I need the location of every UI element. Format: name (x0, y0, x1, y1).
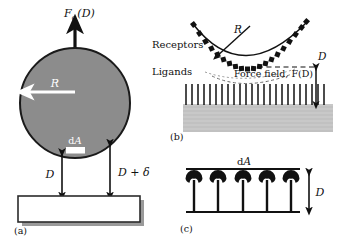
panel-c-area-label: dA (237, 155, 251, 167)
panel-a-area-patch (66, 147, 85, 154)
panel-c: dA (180, 155, 325, 234)
panel-b-force-field-label: Force field, F(D) (234, 68, 313, 79)
panel-b-substrate (183, 104, 333, 132)
panel-a-radius-label: R (50, 77, 59, 90)
panel-c-distance-label: D (315, 186, 325, 199)
panel-b-distance-label: D (317, 50, 327, 62)
receptor-unit (235, 170, 252, 212)
receptor-unit (283, 170, 300, 212)
panel-a-offset-label: D + δ (117, 166, 150, 179)
panel-b-radius-arrow (216, 26, 250, 57)
panel-a: Fc(D) R dA D D + δ (a) (14, 7, 150, 236)
panel-b-ligands (186, 84, 324, 105)
panel-b-ligands-label: Ligands (152, 66, 192, 77)
receptor-unit (186, 170, 203, 212)
receptor-unit (210, 170, 227, 212)
panel-c-tag: (c) (180, 223, 193, 234)
scientific-figure: Fc(D) R dA D D + δ (a) (0, 0, 339, 238)
figure-container: Fc(D) R dA D D + δ (a) (0, 0, 339, 238)
panel-b-tag: (b) (170, 131, 184, 142)
panel-a-force-label: Fc(D) (63, 7, 95, 22)
panel-a-tag: (a) (14, 225, 27, 236)
panel-a-distance-label: D (45, 168, 55, 181)
receptor-unit (259, 170, 276, 212)
panel-a-plate (18, 196, 140, 222)
panel-b-receptors-label: Receptors (152, 39, 203, 50)
panel-b-radius-label: R (233, 23, 242, 35)
panel-b-receptors (190, 18, 310, 72)
panel-b: R D Receptors Ligands Force field, F(D) … (152, 18, 333, 142)
panel-c-receptors (186, 170, 300, 212)
panel-a-area-label: dA (68, 135, 81, 146)
